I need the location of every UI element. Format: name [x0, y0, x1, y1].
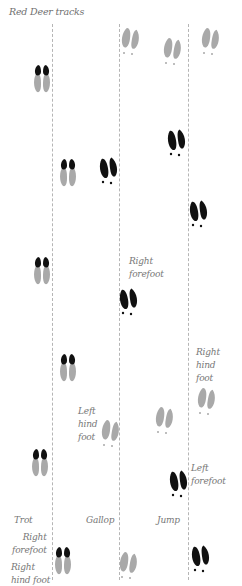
- gait-label-trot: Trot: [14, 514, 33, 527]
- forefoot-print-icon: [188, 198, 210, 228]
- annotation-gallop-right-forefoot: Right forefoot: [129, 255, 164, 281]
- overlapping-print-icon: [29, 448, 51, 478]
- hind-foot-print-icon: [200, 26, 222, 56]
- annotation-jump-left-forefoot: Left forefoot: [191, 462, 226, 488]
- annotation-gallop-left-hind-foot: Left hind foot: [78, 405, 97, 444]
- hind-foot-print-icon: [100, 418, 122, 448]
- hind-foot-print-icon: [196, 386, 218, 416]
- forefoot-print-icon: [98, 155, 120, 185]
- annotation-trot-right-forefoot: Right forefoot: [12, 531, 47, 557]
- hind-foot-print-icon: [154, 405, 176, 435]
- overlapping-print-icon: [31, 256, 53, 286]
- overlapping-print-icon: [31, 64, 53, 94]
- hind-foot-print-icon: [162, 36, 184, 66]
- overlapping-print-icon: [52, 546, 74, 576]
- overlapping-print-icon: [57, 158, 79, 188]
- diagram-title: Red Deer tracks: [9, 6, 84, 17]
- annotation-jump-right-hind-foot: Right hind foot: [196, 346, 220, 385]
- gait-label-gallop: Gallop: [86, 514, 114, 527]
- hind-foot-print-icon: [120, 26, 142, 56]
- forefoot-print-icon: [168, 468, 190, 498]
- overlapping-print-icon: [57, 353, 79, 383]
- forefoot-print-icon: [166, 127, 188, 157]
- annotation-trot-right-hind-foot: Right hind foot: [11, 561, 50, 586]
- gait-divider-line: [52, 24, 53, 580]
- forefoot-print-icon: [118, 286, 140, 316]
- forefoot-print-icon: [190, 543, 212, 573]
- hind-foot-print-icon: [118, 550, 140, 580]
- gait-label-jump: Jump: [157, 514, 180, 527]
